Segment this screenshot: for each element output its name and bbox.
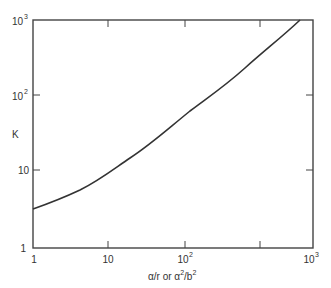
x-tick-label-10: 10 (102, 254, 114, 265)
y-tick-label-100-exp: 2 (24, 88, 28, 95)
y-tick-label-10: 10 (18, 165, 30, 176)
x-tick-label-1000: 10 (303, 254, 315, 265)
y-tick-label-100: 10 (12, 91, 24, 102)
bottom-ticks (108, 241, 260, 248)
y-axis-label: K (12, 129, 19, 140)
top-ticks (108, 20, 260, 27)
x-tick-label-100-exp: 2 (189, 251, 193, 258)
x-tick-label-100: 10 (177, 254, 189, 265)
y-tick-label-1000: 10 (12, 16, 24, 27)
log-log-chart: 1 10 10 2 10 3 K 1 10 10 2 10 3 α/r or α… (0, 0, 331, 288)
left-ticks (33, 95, 40, 170)
right-ticks (306, 95, 313, 170)
x-tick-label-1: 1 (31, 254, 37, 265)
x-tick-label-1000-exp: 3 (315, 251, 319, 258)
plot-frame (33, 20, 313, 248)
data-curve (33, 20, 300, 209)
x-axis-label: α/r or α2/b2 (148, 269, 196, 282)
y-tick-label-1: 1 (20, 243, 26, 254)
y-tick-label-1000-exp: 3 (24, 13, 28, 20)
